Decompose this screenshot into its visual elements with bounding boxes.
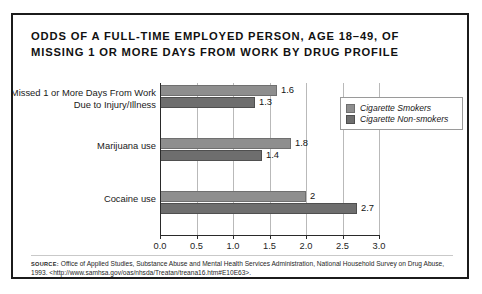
source-note: source: Office of Applied Studies, Subst… — [31, 260, 455, 277]
bar-smokers-2[interactable] — [160, 191, 306, 202]
x-tick-label-2: 1.0 — [227, 241, 240, 251]
x-tick-0 — [160, 235, 161, 239]
x-tick-1 — [197, 235, 198, 239]
figure-frame: ODDS OF A FULL-TIME EMPLOYED PERSON, AGE… — [11, 13, 469, 279]
x-tick-5 — [343, 235, 344, 239]
chart-page: ODDS OF A FULL-TIME EMPLOYED PERSON, AGE… — [0, 0, 482, 294]
x-tick-label-3: 1.5 — [263, 241, 276, 251]
x-tick-label-4: 2.0 — [300, 241, 313, 251]
legend-item-smokers[interactable]: Cigarette Smokers — [346, 103, 457, 113]
bar-value-smokers-2: 2 — [310, 190, 315, 201]
x-tick-4 — [306, 235, 307, 239]
bar-value-nonsmokers-2: 2.7 — [361, 202, 374, 213]
legend-swatch-icon-smokers — [346, 104, 355, 113]
category-label-0: Missed 1 or More Days From Work Due to I… — [0, 87, 156, 110]
category-label-2: Cocaine use — [0, 193, 156, 205]
gridline-0 — [160, 83, 161, 235]
x-tick-label-1: 0.5 — [190, 241, 203, 251]
source-text: Office of Applied Studies, Substance Abu… — [31, 260, 444, 276]
legend-item-nonsmokers[interactable]: Cigarette Non-smokers — [346, 114, 457, 124]
bar-nonsmokers-1[interactable] — [160, 150, 262, 161]
bar-value-smokers-0: 1.6 — [281, 84, 294, 95]
chart-legend: Cigarette Smokers Cigarette Non-smokers — [340, 97, 463, 130]
source-label: source: — [31, 261, 59, 267]
x-tick-6 — [379, 235, 380, 239]
bar-value-smokers-1: 1.8 — [295, 137, 308, 148]
bar-smokers-0[interactable] — [160, 85, 277, 96]
category-label-1: Marijuana use — [0, 140, 156, 152]
x-tick-3 — [270, 235, 271, 239]
source-divider — [31, 255, 453, 256]
bar-value-nonsmokers-1: 1.4 — [266, 149, 279, 160]
x-tick-2 — [233, 235, 234, 239]
legend-swatch-icon-nonsmokers — [346, 115, 355, 124]
bar-nonsmokers-0[interactable] — [160, 97, 255, 108]
bar-smokers-1[interactable] — [160, 138, 291, 149]
x-tick-label-5: 2.5 — [336, 241, 349, 251]
bar-value-nonsmokers-0: 1.3 — [259, 96, 272, 107]
x-tick-label-6: 3.0 — [373, 241, 386, 251]
x-tick-label-0: 0.0 — [154, 241, 167, 251]
legend-label-smokers: Cigarette Smokers — [360, 103, 431, 113]
bar-nonsmokers-2[interactable] — [160, 203, 357, 214]
legend-label-nonsmokers: Cigarette Non-smokers — [360, 114, 448, 124]
chart-title: ODDS OF A FULL-TIME EMPLOYED PERSON, AGE… — [31, 29, 451, 60]
